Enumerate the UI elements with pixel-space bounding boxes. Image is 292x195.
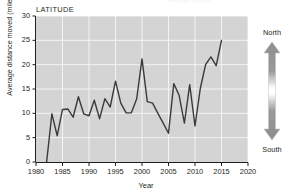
legend-south-label: South	[252, 145, 292, 154]
double-headed-vertical-arrow-icon	[264, 42, 280, 140]
direction-legend: North South	[252, 28, 292, 154]
axis-lines	[0, 0, 292, 195]
legend-north-label: North	[252, 28, 292, 37]
chart-page: Average latitude LATITUDE Average distan…	[0, 0, 292, 195]
